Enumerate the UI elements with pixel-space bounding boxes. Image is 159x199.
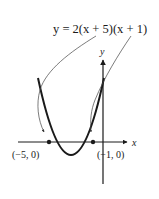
leader-line-right bbox=[91, 36, 131, 132]
root-point-left bbox=[47, 140, 51, 144]
point-label-right: (−1, 0) bbox=[97, 149, 124, 161]
parabola-diagram: y = 2(x + 5)(x + 1) y x (−5, 0) (−1, 0) bbox=[0, 0, 159, 199]
y-axis-label: y bbox=[99, 46, 105, 57]
root-point-right bbox=[91, 140, 95, 144]
equation-label: y = 2(x + 5)(x + 1) bbox=[53, 22, 147, 36]
leader-line-left bbox=[38, 36, 96, 132]
point-label-left: (−5, 0) bbox=[12, 149, 39, 161]
x-axis-label: x bbox=[131, 137, 137, 148]
